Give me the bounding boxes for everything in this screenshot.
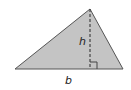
base-label: b bbox=[65, 74, 72, 87]
triangle-shape bbox=[15, 9, 123, 69]
triangle-diagram: h b bbox=[0, 0, 131, 90]
triangle-svg: h b bbox=[0, 0, 131, 90]
height-label: h bbox=[79, 35, 86, 48]
